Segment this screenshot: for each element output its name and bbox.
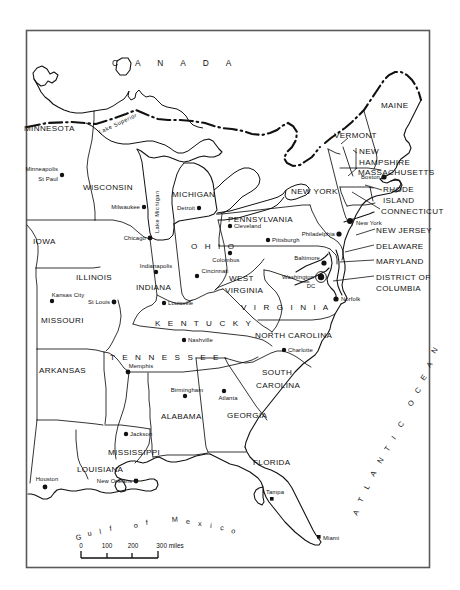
svg-text:o: o — [133, 521, 138, 530]
border-virginia-nc — [258, 314, 335, 320]
leader-new-jersey — [356, 229, 375, 235]
city-label-st-paul: St Paul — [38, 176, 58, 182]
svg-text:M: M — [172, 515, 179, 524]
city-label-charlotte: Charlotte — [288, 347, 313, 353]
state-label-maryland: MARYLAND — [376, 257, 424, 266]
svg-text:A: A — [351, 508, 361, 517]
city-dot-new-york-city — [347, 218, 353, 224]
scale-tick-100: 100 — [102, 542, 113, 549]
svg-text:T: T — [356, 495, 366, 504]
southeast-coastline — [245, 304, 341, 447]
city-dot-miami — [317, 535, 321, 539]
leader-dc — [333, 276, 374, 281]
state-label-louisiana: LOUISIANA — [77, 465, 124, 474]
city-label-milwaukee: Milwaukee — [111, 204, 140, 210]
state-label-alabama: ALABAMA — [161, 412, 202, 421]
state-label-north-carolina: NORTH CAROLINA — [255, 331, 332, 340]
map-container: C A N A D A Lake Superior Lake Michigan … — [0, 0, 460, 590]
city-label-nashville: Nashville — [188, 337, 213, 343]
svg-text:N: N — [375, 456, 385, 465]
scale-tick-200: 200 — [128, 542, 139, 549]
border-ohio-kentucky — [190, 289, 223, 301]
state-label-island: ISLAND — [383, 196, 414, 205]
svg-text:l: l — [99, 527, 103, 536]
city-dot-kansas-city — [50, 299, 54, 303]
city-label-kansas-city: Kansas City — [52, 292, 85, 298]
state-label-mississippi: MISSISSIPPI — [108, 448, 160, 457]
state-label-vermont: VERMONT — [334, 131, 377, 140]
state-label-kentucky: K E N T U C K Y — [155, 319, 253, 328]
city-label-houston: Houston — [36, 476, 59, 482]
city-label-tampa: Tampa — [266, 489, 285, 495]
svg-text:N: N — [429, 346, 439, 355]
city-dot-norfolk — [333, 296, 338, 301]
svg-text:I: I — [389, 434, 397, 441]
scale-bar: 0 100 200 300 miles — [79, 542, 183, 558]
state-label-illinois: ILLINOIS — [76, 273, 112, 282]
svg-text:x: x — [198, 519, 202, 528]
border-newyork-east — [328, 149, 349, 222]
state-label-tennessee: T E N N E S S E E — [110, 353, 221, 362]
label-atlantic-ocean: A T L A N T I C O C E A N — [351, 346, 440, 517]
city-dot-chicago — [148, 236, 153, 241]
border-mississippi-river-north — [106, 300, 121, 351]
border-iowa-south — [36, 267, 100, 268]
city-label-washington: Washington — [282, 274, 314, 280]
border-indiana-ohio — [174, 224, 190, 301]
svg-text:u: u — [87, 528, 93, 538]
city-dot-philadelphia — [336, 231, 341, 236]
border-ct-ny — [340, 187, 347, 206]
border-louisiana-west — [30, 420, 37, 483]
state-label-west: WEST — [229, 274, 254, 283]
city-label-cincinnati: Cincinnati — [202, 268, 229, 274]
svg-text:L: L — [362, 483, 372, 491]
state-label-arkansas: ARKANSAS — [39, 366, 86, 375]
city-dot-detroit — [197, 206, 201, 210]
svg-text:f: f — [109, 524, 113, 533]
state-label-minnesota: MINNESOTA — [24, 124, 75, 133]
city-dot-washington-dc — [318, 274, 324, 280]
city-label-minneapolis: Minneapolis — [25, 166, 58, 172]
border-mississippi-west — [104, 352, 106, 424]
city-dot-houston — [43, 485, 48, 490]
city-label-st-louis: St Louis — [88, 299, 110, 305]
label-gulf-of-mexico: G u l f o f M e x i c o — [75, 515, 236, 542]
state-label-virginia: V I R G I N I A — [241, 303, 331, 312]
map-graphic: C A N A D A Lake Superior Lake Michigan … — [0, 0, 460, 590]
city-label-birmingham: Birmingham — [171, 387, 203, 393]
city-label-memphis: Memphis — [129, 363, 154, 369]
border-newyork-vermont — [328, 149, 340, 154]
border-nc-sc — [225, 351, 311, 367]
border-missouri-west — [36, 268, 37, 349]
svg-text:G: G — [75, 532, 82, 542]
city-dot-jackson — [124, 432, 128, 436]
lake-erie — [217, 190, 286, 213]
state-label-florida: FLORIDA — [253, 458, 291, 467]
chesapeake-bay — [327, 252, 336, 299]
state-label-michigan: MICHIGAN — [172, 190, 215, 199]
svg-text:T: T — [382, 444, 392, 453]
city-dot-birmingham — [183, 394, 187, 398]
svg-text:E: E — [418, 373, 428, 382]
border-ma-south — [340, 187, 373, 188]
city-label-baltimore: Baltimore — [294, 255, 320, 261]
scale-tick-300: 300 miles — [156, 542, 183, 549]
city-dot-louisville — [162, 301, 166, 305]
state-label-rhode: RHODE — [383, 185, 414, 194]
svg-text:f: f — [145, 518, 148, 527]
label-lake-michigan: Lake Michigan — [154, 190, 160, 233]
border-vermont-nh — [343, 147, 353, 176]
border-ohio-east — [215, 220, 227, 290]
city-label-jackson: Jackson — [130, 431, 152, 437]
svg-text:i: i — [210, 521, 213, 530]
border-mississippi-louisiana — [105, 425, 150, 429]
delmarva-peninsula — [336, 250, 342, 295]
svg-text:C: C — [396, 419, 407, 429]
state-label-new-jersey: NEW JERSEY — [376, 226, 432, 235]
svg-text:o: o — [231, 526, 236, 535]
state-label-new: NEW — [359, 147, 379, 156]
city-dot-memphis — [126, 370, 131, 375]
svg-text:c: c — [220, 523, 225, 532]
scale-tick-0: 0 — [79, 542, 83, 549]
city-dot-boston — [381, 174, 386, 179]
